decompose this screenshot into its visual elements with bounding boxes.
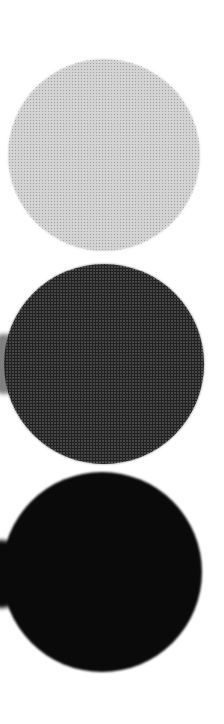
halftone-tone-scale-figure: Halftone tone scale Three overlapping-co… (0, 0, 224, 724)
tone-disc-mid-halftone-screen (4, 264, 204, 464)
tone-disc-dark-fill (2, 472, 202, 672)
tone-disc-light-halftone-screen (8, 59, 200, 251)
